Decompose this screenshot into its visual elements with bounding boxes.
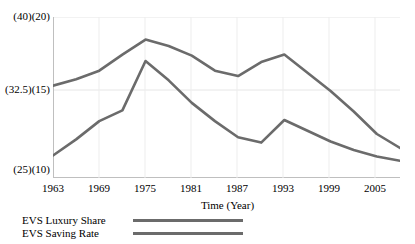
chart-legend: EVS Luxury Share EVS Saving Rate [0,214,415,244]
plot-area [53,17,400,178]
legend-item-evs-saving-rate: EVS Saving Rate [0,227,415,240]
y-axis-tick-top: (40)(20) [0,11,50,22]
y-axis-tick-bottom: (25)(10) [0,164,50,175]
x-axis-title: Time (Year) [201,199,254,211]
legend-label-evs-luxury-share: EVS Luxury Share [22,214,106,227]
x-axis-tick-1993: 1993 [263,183,303,194]
x-axis-tick-2005: 2005 [355,183,395,194]
chart-container: (40)(20) (32.5)(15) (25)(10) 19 [0,0,415,244]
series-line-evs-luxury-share [53,40,400,148]
legend-swatch-evs-saving-rate [133,232,243,235]
legend-item-evs-luxury-share: EVS Luxury Share [0,214,415,227]
legend-swatch-evs-luxury-share [133,219,243,222]
legend-label-evs-saving-rate: EVS Saving Rate [22,227,99,240]
x-axis-title-wrapper: Time (Year) [0,199,415,211]
x-axis-tick-1963: 1963 [33,183,73,194]
x-axis-tick-1969: 1969 [79,183,119,194]
x-axis-tick-1981: 1981 [171,183,211,194]
x-axis-tick-1987: 1987 [217,183,257,194]
x-axis-tick-1999: 1999 [309,183,349,194]
x-axis-tick-1975: 1975 [125,183,165,194]
series-line-evs-saving-rate [53,61,400,161]
y-axis-tick-middle: (32.5)(15) [0,84,50,95]
grid-lines [53,17,400,178]
series-lines [53,40,400,161]
